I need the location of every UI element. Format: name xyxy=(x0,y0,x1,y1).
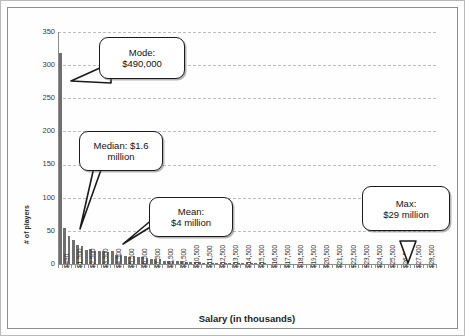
callout-median-line1: Median: $1.6 xyxy=(94,140,149,151)
callout-mode-line1: Mode: xyxy=(122,47,162,58)
callout-mean-line2: $4 million xyxy=(171,217,211,228)
callout-max-line1: Max: xyxy=(383,198,428,209)
callout-median-line2: million xyxy=(94,151,149,162)
image-frame: 350 300 250 200 150 100 50 0 # of player… xyxy=(0,0,465,336)
callout-max[interactable]: Max: $29 million xyxy=(362,186,450,231)
callout-tails xyxy=(1,1,465,336)
callout-mean-line1: Mean: xyxy=(171,206,211,217)
callout-max-line2: $29 million xyxy=(383,209,428,220)
callout-mean[interactable]: Mean: $4 million xyxy=(149,197,233,237)
callout-mode-line2: $490,000 xyxy=(122,58,162,69)
callout-mode[interactable]: Mode: $490,000 xyxy=(99,37,185,79)
salary-distribution-chart: 350 300 250 200 150 100 50 0 # of player… xyxy=(1,1,465,336)
callout-median[interactable]: Median: $1.6 million xyxy=(79,131,163,171)
